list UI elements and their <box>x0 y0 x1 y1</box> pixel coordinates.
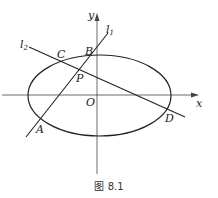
point-c-label: C <box>57 48 66 61</box>
line-l2 <box>29 47 185 117</box>
line-l1-label: l1 <box>106 23 114 37</box>
origin-label: O <box>86 96 95 109</box>
point-a-label: A <box>35 123 44 136</box>
figure-caption: 图 8.1 <box>94 181 123 192</box>
point-b-label: B <box>84 45 93 58</box>
figure-canvas: y x O l1 l2 C B P A D 图 8.1 <box>0 0 218 198</box>
x-axis-label: x <box>196 97 203 110</box>
line-l1 <box>26 33 108 137</box>
y-axis-label: y <box>87 9 95 22</box>
line-l2-label: l2 <box>20 38 29 52</box>
y-axis-arrow-icon <box>95 13 100 21</box>
point-d-label: D <box>164 112 174 125</box>
ellipse <box>28 55 171 136</box>
point-p-label: P <box>75 72 84 85</box>
